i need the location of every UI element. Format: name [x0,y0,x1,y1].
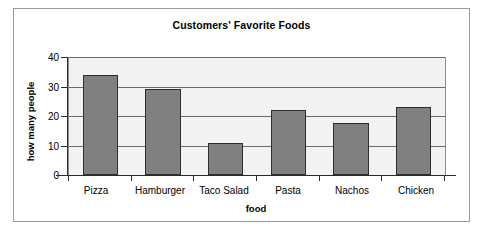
y-axis-tick-label: 10 [17,140,59,151]
x-axis-title: food [68,203,444,214]
bar[interactable] [333,123,368,175]
bar-slot [320,57,383,175]
bar[interactable] [208,143,243,175]
y-axis-tick-mark [61,87,68,88]
y-axis-tick-mark [61,175,68,176]
chart-figure: Customers' Favorite Foods how many peopl… [13,8,470,222]
y-axis-tick-mark [61,146,68,147]
x-axis-tick-label: Pizza [64,185,128,196]
bar-slot [382,57,445,175]
x-axis-tick-label: Hamburger [128,185,192,196]
x-axis-tick-labels: PizzaHamburgerTaco SaladPastaNachosChick… [64,185,448,196]
y-axis-tick-label: 30 [17,81,59,92]
x-axis-tick-mark [381,176,382,181]
plot-area [68,57,446,175]
y-axis-tick-mark [61,116,68,117]
bar[interactable] [83,75,118,175]
chart-title: Customers' Favorite Foods [14,19,469,31]
bars-group [69,57,445,175]
y-axis-tick-mark [61,57,68,58]
bar-slot [257,57,320,175]
x-axis-tick-mark [256,176,257,181]
bar[interactable] [396,107,431,175]
x-axis-tick-label: Nachos [320,185,384,196]
y-axis-tick-label: 0 [17,170,59,181]
bar-slot [194,57,257,175]
bar[interactable] [271,110,306,175]
x-axis-tick-marks [68,176,444,181]
y-axis-tick-label: 20 [17,111,59,122]
x-axis-tick-label: Taco Salad [192,185,256,196]
x-axis-tick-mark [319,176,320,181]
y-axis-tick-labels: 403020100 [14,9,59,221]
bar-slot [132,57,195,175]
x-axis-tick-label: Chicken [384,185,448,196]
x-axis-tick-mark [444,176,445,181]
y-axis-tick-label: 40 [17,52,59,63]
x-axis-tick-label: Pasta [256,185,320,196]
x-axis-tick-mark [193,176,194,181]
bar[interactable] [145,89,180,175]
x-axis-tick-mark [68,176,69,181]
bar-slot [69,57,132,175]
x-axis-tick-mark [131,176,132,181]
